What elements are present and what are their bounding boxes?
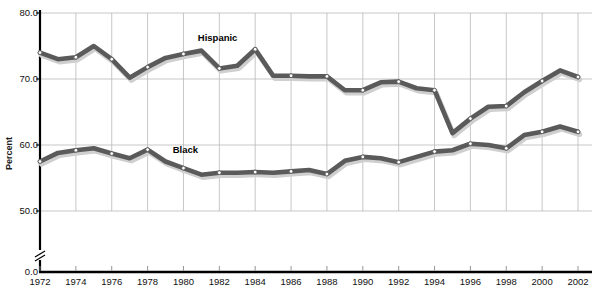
data-point — [38, 51, 42, 55]
data-point — [325, 172, 329, 176]
data-point — [110, 152, 114, 156]
data-point — [253, 170, 257, 174]
data-point — [289, 74, 293, 78]
data-point — [433, 150, 437, 154]
data-point — [182, 52, 186, 56]
data-point — [469, 117, 473, 121]
data-point — [74, 55, 78, 59]
data-point — [361, 88, 365, 92]
series-label-black: Black — [173, 144, 198, 155]
line-chart: Percent 80.070.060.050.00.0 197219741976… — [0, 0, 597, 306]
axis-ticks — [36, 13, 578, 271]
data-point — [110, 57, 114, 61]
data-point — [217, 171, 221, 175]
data-point — [289, 170, 293, 174]
series-black — [38, 127, 580, 178]
data-point — [540, 79, 544, 83]
data-point — [504, 146, 508, 150]
data-point — [146, 65, 150, 69]
data-point — [325, 74, 329, 78]
gridlines — [40, 13, 592, 211]
data-point — [433, 88, 437, 92]
plot-area — [0, 0, 597, 306]
series-hispanic — [38, 46, 580, 136]
data-point — [217, 67, 221, 71]
axis-lines — [39, 10, 592, 272]
series-label-hispanic: Hispanic — [198, 32, 238, 43]
data-point — [504, 104, 508, 108]
data-point — [38, 160, 42, 164]
data-point — [74, 148, 78, 152]
data-point — [397, 160, 401, 164]
data-point — [469, 142, 473, 146]
data-point — [182, 166, 186, 170]
data-point — [540, 130, 544, 134]
series-layer — [38, 46, 580, 177]
y-axis-break-marker — [35, 251, 45, 261]
data-point — [576, 130, 580, 134]
data-point — [361, 155, 365, 159]
data-point — [397, 80, 401, 84]
data-point — [576, 75, 580, 79]
data-point — [146, 148, 150, 152]
data-point — [253, 47, 257, 51]
